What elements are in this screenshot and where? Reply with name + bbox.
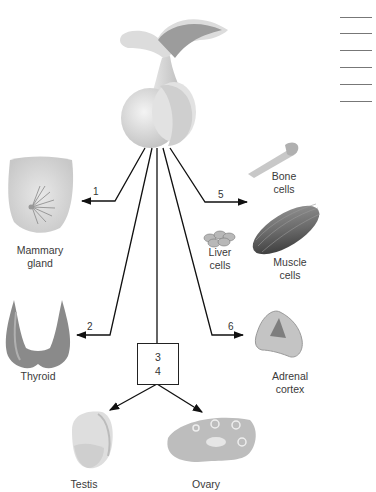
liver-cells-icon [204,231,235,247]
arrow-number-5: 5 [218,189,224,200]
testis-icon [72,412,113,469]
diagram-canvas: 1 2 5 6 3 4 Mammary gland Thyroid Bone c… [0,0,376,492]
label-thyroid: Thyroid [8,370,68,383]
arrow-number-6: 6 [228,321,234,332]
adrenal-cortex-icon [255,311,302,357]
ovary-icon [167,418,255,462]
answer-blank-1[interactable] [340,17,372,18]
label-testis: Testis [64,478,104,491]
box-3-4: 3 4 [137,343,179,385]
muscle-cells-icon [245,196,326,263]
answer-blank-5[interactable] [340,84,372,85]
mammary-gland-icon [8,157,73,233]
label-ovary: Ovary [186,478,226,491]
pituitary-gland-icon [120,19,228,148]
arrow-number-2: 2 [87,321,93,332]
arrow-number-1: 1 [93,186,99,197]
label-muscle-cells: Muscle cells [266,256,314,282]
answer-blank-2[interactable] [340,33,372,34]
thyroid-icon [6,300,70,368]
answer-blank-4[interactable] [340,67,372,68]
box-number-4: 4 [155,364,161,378]
answer-blank-6[interactable] [340,101,372,102]
answer-blank-3[interactable] [340,50,372,51]
label-mammary-gland: Mammary gland [8,244,72,270]
box-number-3: 3 [155,350,161,364]
label-adrenal-cortex: Adrenal cortex [266,370,314,396]
label-bone-cells: Bone cells [262,170,306,196]
label-liver-cells: Liver cells [200,246,240,272]
